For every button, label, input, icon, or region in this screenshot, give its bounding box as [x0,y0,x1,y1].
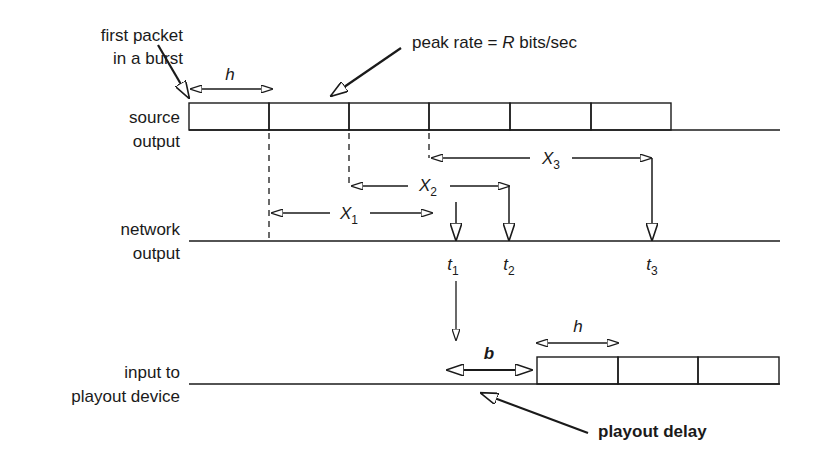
svg-text:output: output [133,244,181,263]
t3-label: t3 [646,255,658,278]
h-bottom-label: h [573,317,582,336]
source-packet-2 [269,103,349,130]
source-packet-5 [510,103,591,130]
svg-text:source: source [129,108,180,127]
first-packet-label: first packet in a burst [101,26,183,68]
x3-label: X3 [541,149,560,172]
source-packet-6 [591,103,671,130]
playout-packet-3 [698,357,779,384]
x2-delay-span: X2 [352,176,509,199]
playout-device-label: input to playout device [71,363,180,406]
peak-rate-label: peak rate = R bits/sec [412,33,577,52]
svg-text:playout device: playout device [71,387,180,406]
svg-text:input to: input to [124,363,180,382]
network-output-label: network output [120,220,180,263]
source-output-timeline [189,103,780,130]
b-label: b [484,344,494,363]
x3-delay-span: X3 [432,149,651,172]
playout-packet-2 [618,357,698,384]
source-output-label: source output [129,108,180,151]
source-packet-1 [189,103,269,130]
playout-packet-1 [537,357,618,384]
playout-delay-pointer-arrow [481,393,588,433]
source-packet-3 [349,103,429,130]
svg-text:first packet: first packet [101,26,183,45]
t1-label: t1 [447,255,459,278]
source-packet-4 [429,103,510,130]
svg-text:output: output [133,132,181,151]
x1-delay-span: X1 [272,204,432,227]
svg-text:in a burst: in a burst [113,49,183,68]
playout-delay-diagram: first packet in a burst source output ne… [0,0,818,471]
t2-label: t2 [503,255,515,278]
playout-delay-label: playout delay [598,422,707,441]
peak-rate-pointer-arrow [331,48,401,96]
x1-label: X1 [339,204,358,227]
x2-label: X2 [418,176,437,199]
svg-text:network: network [120,220,180,239]
h-top-label: h [225,65,234,84]
